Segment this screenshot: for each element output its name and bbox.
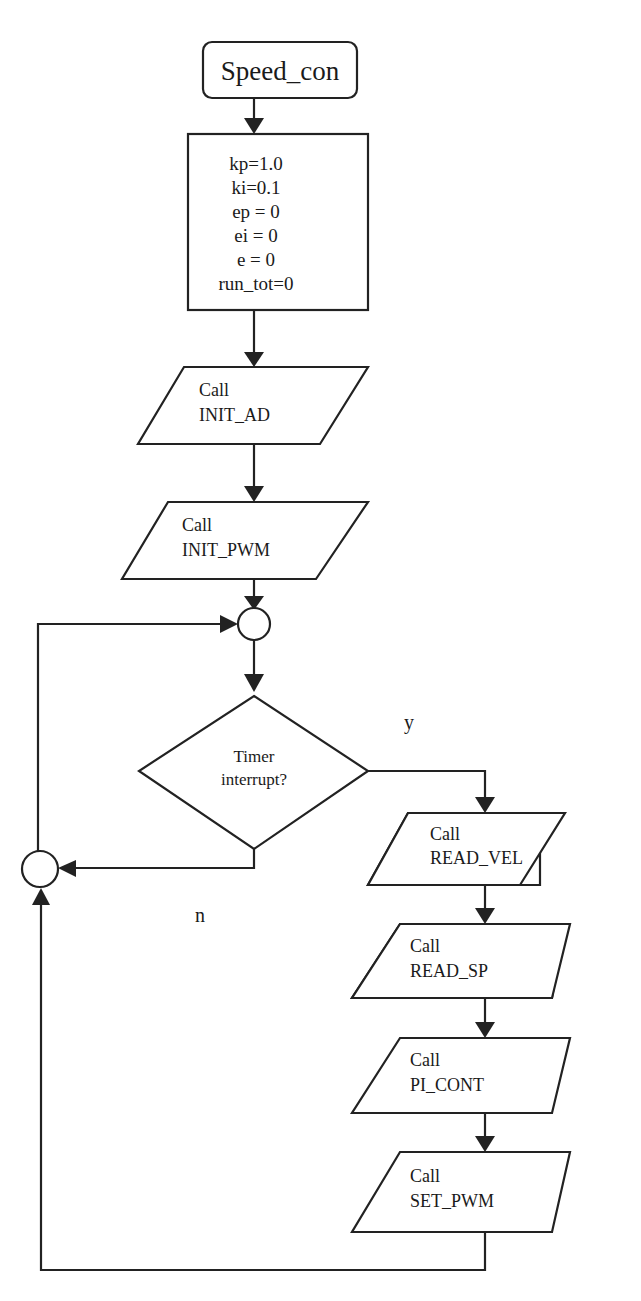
- call-pi-cont-line1: Call: [410, 1050, 440, 1070]
- flowchart: Speed_con kp=1.0 ki=0.1 ep = 0 ei = 0 e …: [0, 0, 641, 1301]
- init-ep: ep = 0: [232, 201, 280, 222]
- call-read-vel-line1: Call: [430, 824, 460, 844]
- call-init-pwm-line2: INIT_PWM: [182, 540, 270, 560]
- decision-line2: interrupt?: [221, 770, 287, 789]
- call-read-vel-line2: READ_VEL: [430, 848, 523, 868]
- call-pi-cont-line2: PI_CONT: [410, 1075, 484, 1095]
- init-kp: kp=1.0: [229, 153, 282, 174]
- init-ei: ei = 0: [234, 225, 277, 246]
- call-init-ad-line1: Call: [199, 380, 229, 400]
- call-set-pwm: Call SET_PWM: [352, 1152, 570, 1232]
- init-ki: ki=0.1: [231, 177, 280, 198]
- call-read-sp: Call READ_SP: [352, 924, 570, 998]
- call-read-vel: Call READ_VEL: [368, 813, 565, 885]
- yes-label: y: [404, 711, 414, 734]
- call-set-pwm-line2: SET_PWM: [410, 1191, 494, 1211]
- call-pi-cont: Call PI_CONT: [352, 1038, 570, 1113]
- start-terminal: Speed_con: [203, 42, 357, 98]
- call-init-ad: Call INIT_AD: [138, 367, 368, 444]
- decision-line1: Timer: [234, 747, 275, 766]
- no-label: n: [195, 904, 205, 926]
- call-read-sp-line1: Call: [410, 936, 440, 956]
- call-init-pwm-line1: Call: [182, 515, 212, 535]
- loop-connector-bottom: [22, 851, 58, 887]
- call-init-ad-line2: INIT_AD: [199, 405, 270, 425]
- init-variables-block: kp=1.0 ki=0.1 ep = 0 ei = 0 e = 0 run_to…: [188, 134, 368, 310]
- call-set-pwm-line1: Call: [410, 1166, 440, 1186]
- init-run-tot: run_tot=0: [218, 273, 293, 294]
- timer-interrupt-decision: Timer interrupt?: [139, 696, 368, 849]
- loop-connector-top: [238, 608, 270, 640]
- call-read-sp-line2: READ_SP: [410, 961, 488, 981]
- start-label: Speed_con: [221, 56, 340, 86]
- init-e: e = 0: [237, 249, 275, 270]
- call-init-pwm: Call INIT_PWM: [122, 502, 368, 579]
